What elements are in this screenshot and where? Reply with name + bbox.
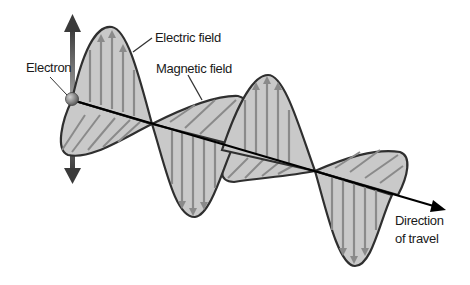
magnetic-field-leader-line [188,75,202,100]
direction-label-line2: of travel [395,231,439,246]
electron-label: Electron [26,60,71,75]
electron-leader-line [50,77,67,95]
electric-field-leader-line [133,38,152,52]
magnetic-field-label: Magnetic field [156,61,232,76]
electric-field-label: Electric field [155,30,221,45]
electron-particle [66,93,79,106]
direction-label-line1: Direction [395,213,444,228]
em-wave-diagram: Electron Electric field Magnetic field D… [0,0,470,285]
